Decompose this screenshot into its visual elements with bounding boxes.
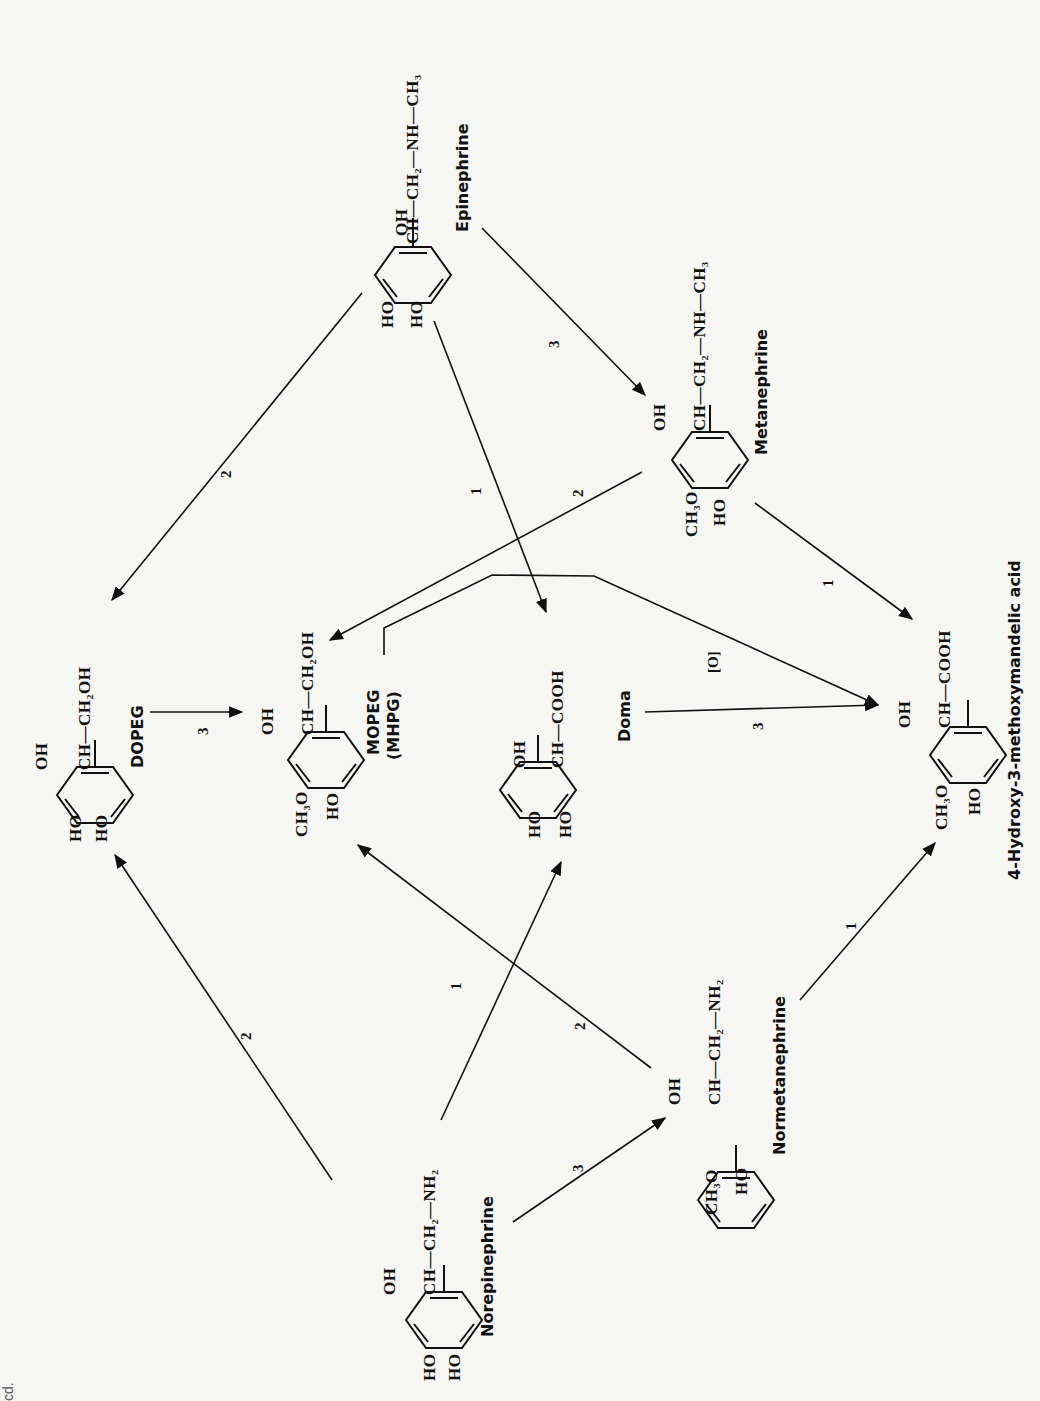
vma-ring-sub-1: CH₃O <box>932 784 952 830</box>
epinephrine-ring-sub-2: HO <box>407 301 427 328</box>
arrow-ne-nmn <box>513 1118 665 1222</box>
mopeg-oh: OH <box>258 708 278 735</box>
step-label-dopeg-mopeg: 3 <box>195 728 212 736</box>
step-label-nmn-mopeg: 2 <box>572 1023 589 1031</box>
step-label-epi-dopeg: 2 <box>218 471 235 479</box>
norepinephrine-label: Norepinephrine <box>478 1196 497 1337</box>
arrow-doma-vma <box>645 705 878 712</box>
norepinephrine-ring-sub-2: HO <box>445 1354 465 1381</box>
normetanephrine-side-chain: CH—CH₂—NH₂ <box>705 979 725 1105</box>
page-corner-fragment: cd. <box>0 1382 16 1401</box>
arrow-met-mopeg <box>330 472 642 640</box>
doma-oh: OH <box>510 741 530 768</box>
metanephrine-oh: OH <box>650 404 670 431</box>
ring-metanephrine <box>672 432 748 488</box>
step-label-epi-doma: 1 <box>468 488 485 496</box>
arrow-mopeg-vma <box>384 575 878 705</box>
ring-vma <box>930 727 1006 783</box>
metanephrine-ring-sub-2: HO <box>710 499 730 526</box>
norepinephrine-ring-sub-1: HO <box>420 1354 440 1381</box>
normetanephrine-ring-sub-2: HO <box>732 1168 752 1195</box>
norepinephrine-side-chain: CH—CH₂—NH₂ <box>420 1169 440 1295</box>
mopeg-label: MOPEG <box>364 690 383 755</box>
normetanephrine-label: Normetanephrine <box>770 996 789 1155</box>
metanephrine-label: Metanephrine <box>752 329 771 455</box>
step-label-doma-vma: 3 <box>750 723 767 731</box>
arrow-nmn-mopeg <box>358 845 651 1068</box>
diagram-lines <box>0 0 1040 1401</box>
vma-label: 4-Hydroxy-3-methoxymandelic acid <box>1005 560 1024 880</box>
dopeg-ring-sub-1: HO <box>66 815 86 842</box>
normetanephrine-oh: OH <box>665 1078 685 1105</box>
metanephrine-side-chain: CH—CH₂—NH—CH₃ <box>690 261 710 431</box>
arrow-met-vma <box>755 503 912 619</box>
epinephrine-label: Epinephrine <box>453 123 472 232</box>
doma-side-chain: CH—COOH <box>548 670 568 768</box>
doma-ring-sub-1: HO <box>525 811 545 838</box>
arrow-ne-doma <box>441 862 561 1120</box>
epinephrine-ring-sub-1: HO <box>378 301 398 328</box>
step-label-met-vma: 1 <box>820 580 837 588</box>
ring-epinephrine <box>375 247 451 303</box>
vma-ring-sub-2: HO <box>965 788 985 815</box>
step-label-ne-dopeg: 2 <box>238 1033 255 1041</box>
arrow-nmn-vma <box>800 843 935 1000</box>
vma-oh: OH <box>895 701 915 728</box>
step-label-nmn-vma: 1 <box>843 923 860 931</box>
step-label-epi-met: 3 <box>546 341 563 349</box>
doma-label: Doma <box>615 690 634 742</box>
dopeg-side-chain: CH—CH₂OH <box>75 666 95 770</box>
step-label-mopeg-vma: [O] <box>705 651 722 673</box>
norepinephrine-oh: OH <box>380 1268 400 1295</box>
arrow-epi-doma <box>434 321 546 612</box>
ring-mopeg <box>288 732 364 788</box>
arrow-epi-dopeg <box>112 293 362 600</box>
vma-side-chain: CH—COOH <box>935 630 955 728</box>
mopeg-side-chain: CH—CH₂OH <box>298 631 318 735</box>
epinephrine-side-chain: CH—CH₂—NH—CH₃ <box>403 74 423 244</box>
ring-norepinephrine <box>406 1292 482 1348</box>
step-label-ne-doma: 1 <box>448 983 465 991</box>
doma-ring-sub-2: HO <box>556 811 576 838</box>
dopeg-oh: OH <box>32 743 52 770</box>
dopeg-label: DOPEG <box>128 705 147 768</box>
step-label-met-mopeg: 2 <box>570 490 587 498</box>
metanephrine-ring-sub-1: CH₃O <box>682 491 702 537</box>
normetanephrine-ring-sub-1: CH₃O <box>702 1169 722 1215</box>
mopeg-ring-sub-1: CH₃O <box>292 791 312 837</box>
mopeg-ring-sub-2: HO <box>323 793 343 820</box>
pathway-diagram: OH CH—CH₂—NH—CH₃ HO HO Epinephrine OH CH… <box>0 0 1040 1401</box>
arrow-epi-met <box>482 228 645 395</box>
dopeg-ring-sub-2: HO <box>92 815 112 842</box>
arrow-ne-dopeg <box>115 855 332 1180</box>
step-label-ne-nmn: 3 <box>570 1165 587 1173</box>
mopeg-alt-label: (MHPG) <box>384 691 403 760</box>
